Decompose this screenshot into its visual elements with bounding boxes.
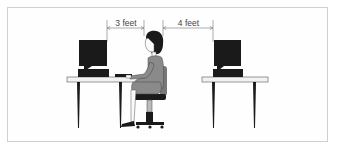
- dimension-label-3-feet: 3 feet: [108, 18, 144, 28]
- left-computer-icon: [78, 40, 132, 77]
- right-computer-icon: [213, 40, 243, 77]
- right-desk: [202, 77, 268, 128]
- dimension-label-4-feet: 4 feet: [164, 18, 213, 28]
